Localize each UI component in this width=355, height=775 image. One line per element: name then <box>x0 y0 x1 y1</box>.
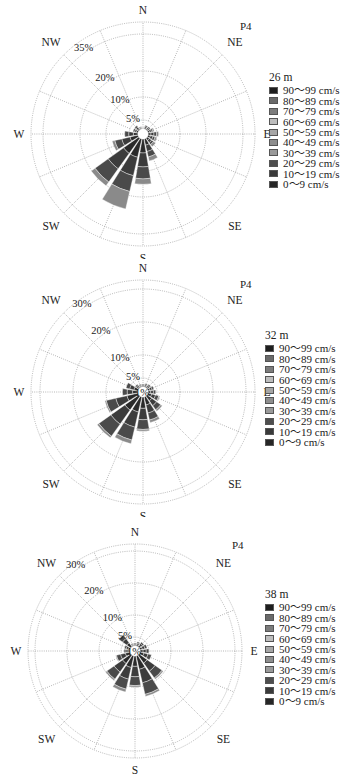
legend-swatch <box>269 87 278 94</box>
speed-legend: 38 m90～99 cm/s80～89 cm/s70～79 cm/s60～69 … <box>265 589 336 706</box>
windrose-bar-S <box>129 676 140 685</box>
site-label: P4 <box>240 20 252 32</box>
legend-label: 0～9 cm/s <box>283 179 329 189</box>
direction-label-nw: NW <box>41 294 60 306</box>
windrose-bar-N <box>142 384 145 385</box>
legend-label: 0～9 cm/s <box>279 437 325 447</box>
legend-swatch <box>265 614 274 621</box>
windrose-32m: 1%5%10%20%30%NNEESESSWWNWP432 m90～99 cm/… <box>0 258 355 516</box>
legend-swatch <box>265 407 274 414</box>
windrose-bar-W <box>125 131 129 137</box>
windrose-bar-S <box>138 408 147 420</box>
legend-swatch <box>265 366 274 373</box>
legend-swatch <box>269 170 278 177</box>
ring-label: 35% <box>74 42 94 53</box>
legend-swatch <box>265 439 274 446</box>
legend-swatch <box>265 428 274 435</box>
ring-label: 5% <box>118 630 132 641</box>
legend-swatch <box>265 656 274 663</box>
legend-swatch <box>269 97 278 104</box>
windrose-bar-S <box>138 153 149 167</box>
legend-swatch <box>265 604 274 611</box>
legend-swatch <box>265 376 274 383</box>
legend-swatch <box>269 108 278 115</box>
direction-label-ne: NE <box>227 294 242 306</box>
legend-label: 20～29 cm/s <box>283 158 340 168</box>
legend-label: 0～9 cm/s <box>279 696 325 706</box>
direction-label-sw: SW <box>42 220 59 232</box>
direction-label-nw: NW <box>41 36 60 48</box>
windrose-bar-E <box>154 132 157 136</box>
speed-legend: 32 m90～99 cm/s80～89 cm/s70～79 cm/s60～69 … <box>265 330 336 447</box>
direction-label-nw: NW <box>37 557 56 569</box>
legend-title: 38 m <box>265 589 336 599</box>
windrose-bar-S <box>137 419 149 429</box>
legend-swatch <box>265 387 274 394</box>
legend-title: 32 m <box>265 330 336 340</box>
legend-title: 26 m <box>269 72 340 82</box>
legend-swatch <box>265 687 274 694</box>
ring-label: 10% <box>110 352 130 363</box>
direction-label-w: W <box>14 128 25 140</box>
windrose-26m: 5%10%20%35%NNEESESSWWNWP426 m90～99 cm/s8… <box>0 0 355 258</box>
legend-swatch <box>265 345 274 352</box>
ring-label: 20% <box>95 72 115 83</box>
legend-item: 0～9 cm/s <box>269 179 340 189</box>
windrose-bar-W <box>127 389 133 394</box>
windrose-bar-N <box>134 643 137 644</box>
ring-label: 1% <box>135 387 149 398</box>
direction-label-w: W <box>11 645 22 657</box>
legend-swatch <box>269 149 278 156</box>
ring-label: 1% <box>127 646 141 657</box>
direction-label-sw: SW <box>38 733 55 745</box>
site-label: P4 <box>232 539 244 551</box>
windrose-bar-E <box>151 132 154 136</box>
direction-label-ne: NE <box>227 36 242 48</box>
direction-label-s: S <box>132 764 138 775</box>
legend-swatch <box>269 181 278 188</box>
legend-item: 0～9 cm/s <box>265 696 336 706</box>
ring-label: 5% <box>126 113 140 124</box>
ring-label: 30% <box>72 298 92 309</box>
direction-label-n: N <box>131 526 140 538</box>
legend-swatch <box>269 129 278 136</box>
windrose-bar-S <box>136 166 151 178</box>
legend-swatch <box>269 118 278 125</box>
legend-swatch <box>265 625 274 632</box>
direction-label-se: SE <box>228 478 241 490</box>
legend-swatch <box>265 635 274 642</box>
ring-label: 20% <box>91 325 111 336</box>
legend-item: 20～29 cm/s <box>269 158 340 168</box>
windrose-bar-W <box>129 132 134 137</box>
legend-swatch <box>265 355 274 362</box>
legend-swatch <box>269 139 278 146</box>
site-label: P4 <box>240 278 252 290</box>
windrose-bar-E <box>153 390 155 394</box>
windrose-38m: 1%5%10%20%30%NNEESESSWWNWP438 m90～99 cm/… <box>0 516 355 775</box>
windrose-bar-E <box>151 390 154 393</box>
ring-label: 10% <box>103 612 123 623</box>
windrose-bar-W <box>122 389 127 396</box>
direction-label-sw: SW <box>42 478 59 490</box>
direction-label-e: E <box>250 645 257 657</box>
legend-swatch <box>265 418 274 425</box>
legend-swatch <box>265 666 274 673</box>
legend-item: 20～29 cm/s <box>265 416 336 426</box>
windrose-bar-S <box>129 685 141 687</box>
legend-swatch <box>265 646 274 653</box>
legend-swatch <box>265 397 274 404</box>
legend-label: 20～29 cm/s <box>279 675 336 685</box>
legend-swatch <box>265 677 274 684</box>
legend-item: 0～9 cm/s <box>265 437 336 447</box>
direction-label-w: W <box>14 386 25 398</box>
ring-label: 5% <box>126 371 140 382</box>
windrose-bar-E <box>143 649 146 653</box>
speed-legend: 26 m90～99 cm/s80～89 cm/s70～79 cm/s60～69 … <box>269 72 340 189</box>
direction-label-n: N <box>139 262 148 274</box>
windrose-bar-E <box>156 131 158 136</box>
windrose-bar-S <box>137 429 150 431</box>
windrose-bar-S <box>135 178 152 184</box>
legend-label: 20～29 cm/s <box>279 416 336 426</box>
windrose-bar-E <box>148 133 151 136</box>
windrose-bar-W <box>124 649 126 653</box>
